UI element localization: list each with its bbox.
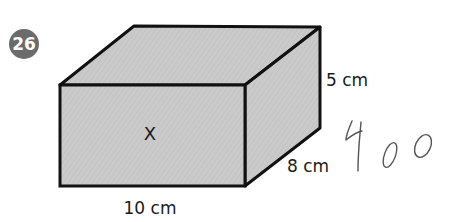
face-label: X xyxy=(144,123,156,144)
problem-number: 26 xyxy=(12,34,36,54)
cuboid: X xyxy=(60,26,320,186)
depth-label: 8 cm xyxy=(287,156,329,176)
problem-number-badge: 26 xyxy=(9,29,39,59)
problem-figure: 26 X 10 cm 5 cm 8 cm xyxy=(0,0,467,222)
height-label: 5 cm xyxy=(326,70,368,90)
handwritten-digit-0 xyxy=(411,132,435,160)
handwritten-digit-4 xyxy=(346,121,362,171)
handwritten-answer xyxy=(346,121,435,171)
length-label: 10 cm xyxy=(124,198,177,218)
handwritten-digit-0 xyxy=(380,141,399,169)
